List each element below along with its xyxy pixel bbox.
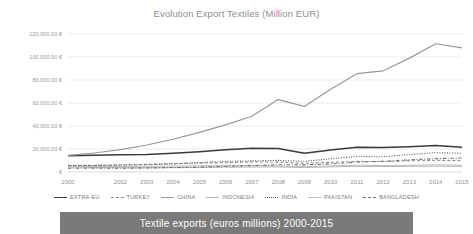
legend-item-extra-eu[interactable]: EXTRA-EU xyxy=(54,194,99,200)
gridlines xyxy=(68,34,462,172)
x-axis-tick-label: 2003 xyxy=(140,179,154,185)
x-axis-tick-label: 2009 xyxy=(298,179,312,185)
x-axis-tick-label: 2006 xyxy=(219,179,233,185)
y-axis-labels: - €20,000.00 €40,000.00 €60,000.00 €80,0… xyxy=(29,31,63,175)
legend-swatch-turkey xyxy=(111,197,124,198)
x-axis-tick-label: 2007 xyxy=(245,179,259,185)
x-axis-tick-label: 2015 xyxy=(455,179,469,185)
y-axis-tick-label: 80,000.00 € xyxy=(32,77,62,83)
x-axis-tick-label: 2008 xyxy=(271,179,285,185)
x-axis-tick-label: 2013 xyxy=(403,179,417,185)
series-line-extra-eu xyxy=(68,146,462,156)
legend-swatch-indonesia xyxy=(206,197,219,198)
chart-card: Evolution Export Textiles (Million EUR) … xyxy=(0,0,473,234)
legend-label-india: INDIA xyxy=(281,194,297,200)
legend-item-turkey[interactable]: TURKEY xyxy=(111,194,151,200)
y-axis-tick-label: 120,000.00 € xyxy=(29,31,63,37)
x-axis-tick-label: 2000 xyxy=(61,179,75,185)
caption-bar: Textile exports (euros millions) 2000-20… xyxy=(60,212,413,234)
legend-swatch-china xyxy=(161,197,174,198)
caption-text: Textile exports (euros millions) 2000-20… xyxy=(140,218,334,229)
y-axis-tick-label: 60,000.00 € xyxy=(32,100,62,106)
x-axis-tick-label: 2014 xyxy=(429,179,443,185)
legend-label-bangladesh: BANGLADESH xyxy=(379,194,419,200)
legend-label-pakistan: PAKISTAN xyxy=(324,194,352,200)
legend-swatch-india xyxy=(265,197,278,198)
chart-legend: EXTRA-EUTURKEYCHINAINDONESIAINDIAPAKISTA… xyxy=(0,190,473,204)
legend-label-extra-eu: EXTRA-EU xyxy=(70,194,99,200)
legend-swatch-bangladesh xyxy=(363,197,376,198)
legend-item-india[interactable]: INDIA xyxy=(265,194,297,200)
legend-label-indonesia: INDONESIA xyxy=(222,194,254,200)
legend-item-pakistan[interactable]: PAKISTAN xyxy=(308,194,352,200)
series-line-china xyxy=(68,44,462,156)
legend-item-china[interactable]: CHINA xyxy=(161,194,195,200)
x-axis-tick-label: 2010 xyxy=(324,179,338,185)
legend-item-bangladesh[interactable]: BANGLADESH xyxy=(363,194,419,200)
x-axis-labels: 2000200220032004200520062007200820092010… xyxy=(61,179,469,185)
y-axis-tick-label: 20,000.00 € xyxy=(32,146,62,152)
x-axis-tick-label: 2012 xyxy=(377,179,391,185)
x-axis-tick-label: 2004 xyxy=(166,179,180,185)
legend-item-indonesia[interactable]: INDONESIA xyxy=(206,194,254,200)
y-axis-tick-label: 100,000.00 € xyxy=(29,54,63,60)
y-axis-tick-label: 40,000.00 € xyxy=(32,123,62,129)
legend-label-turkey: TURKEY xyxy=(127,194,151,200)
legend-swatch-extra-eu xyxy=(54,197,67,198)
legend-label-china: CHINA xyxy=(177,194,195,200)
y-axis-tick-label: - € xyxy=(55,169,62,175)
legend-swatch-pakistan xyxy=(308,197,321,198)
x-axis-tick-label: 2011 xyxy=(350,179,364,185)
series-lines xyxy=(68,44,462,169)
x-axis-tick-label: 2002 xyxy=(114,179,128,185)
x-axis-tick-label: 2005 xyxy=(193,179,207,185)
